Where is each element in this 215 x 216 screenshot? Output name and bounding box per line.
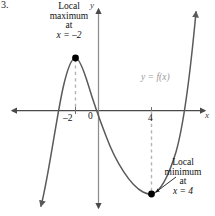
local-maximum-point: [72, 55, 79, 62]
local-minimum-line-4: x = 4: [152, 187, 214, 197]
origin-tick-label: 0: [88, 112, 93, 122]
curve-equation-label: y = f(x): [141, 73, 170, 83]
figure-container: 3. Local maximum at x = –2 Local minimum…: [0, 0, 215, 216]
x-tick-label-four: 4: [148, 114, 153, 124]
x-tick-label-neg2: –2: [63, 114, 73, 124]
x-axis-label: x: [205, 111, 209, 120]
local-maximum-line-4: x = –2: [38, 31, 100, 41]
local-minimum-annotation: Local minimum at x = 4: [152, 158, 214, 197]
problem-number: 3.: [1, 0, 9, 10]
y-axis-label: y: [90, 1, 94, 10]
